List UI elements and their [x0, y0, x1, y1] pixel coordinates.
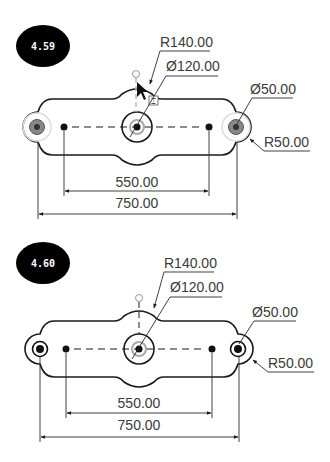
dim-label: 750.00	[118, 417, 161, 433]
figure-4-60: 4.60 R140.00 Ø120.00	[16, 242, 314, 442]
mouse-cursor-icon	[137, 82, 148, 100]
dim-label: R140.00	[164, 255, 217, 271]
radius-end-dim[interactable]: R50.00	[253, 355, 314, 372]
right-point[interactable]	[206, 124, 213, 131]
left-point[interactable]	[61, 124, 68, 131]
badge-label: 4.60	[31, 258, 55, 269]
left-point[interactable]	[63, 346, 70, 353]
dim-label: Ø50.00	[250, 81, 296, 97]
dim-label: 550.00	[116, 174, 159, 190]
dim-label: R50.00	[268, 355, 313, 371]
dim-label: 550.00	[118, 395, 161, 411]
inner-span-dim[interactable]: 550.00	[65, 174, 208, 191]
drawing-canvas: 4.59 ⌶	[0, 0, 330, 462]
right-point[interactable]	[209, 346, 216, 353]
figure-4-59: 4.59 ⌶	[16, 25, 310, 219]
dim-label: Ø50.00	[252, 304, 298, 320]
dim-label: R140.00	[160, 34, 213, 50]
drag-handle[interactable]	[136, 295, 143, 302]
right-end-hole[interactable]	[222, 113, 250, 141]
left-end-hole[interactable]	[23, 113, 51, 141]
figure-badge: 4.59	[16, 25, 70, 67]
svg-text:⌶: ⌶	[151, 97, 156, 106]
right-end-hole[interactable]	[231, 342, 246, 357]
overall-span-dim[interactable]: 750.00	[39, 195, 236, 214]
left-end-hole[interactable]	[33, 342, 48, 357]
dim-label: Ø120.00	[166, 58, 220, 74]
dim-label: 750.00	[116, 195, 159, 211]
overall-span-dim[interactable]: 750.00	[41, 417, 238, 437]
dim-label: R50.00	[264, 134, 309, 150]
dim-label: Ø120.00	[170, 279, 224, 295]
inner-span-dim[interactable]: 550.00	[67, 395, 211, 413]
radius-end-dim[interactable]: R50.00	[250, 134, 310, 151]
drag-handle[interactable]	[133, 71, 140, 78]
figure-badge: 4.60	[16, 242, 70, 284]
badge-label: 4.59	[31, 41, 55, 52]
